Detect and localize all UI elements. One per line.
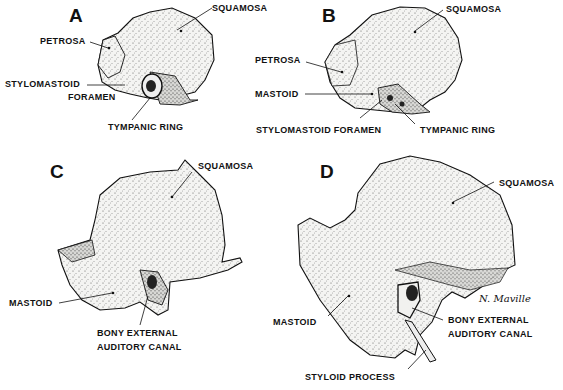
label-b-squamosa: SQUAMOSA	[446, 4, 501, 15]
panel-a-bone	[87, 8, 214, 120]
label-a-petrosa: PETROSA	[40, 36, 86, 47]
label-b-mastoid: MASTOID	[255, 89, 298, 100]
label-c-canal-line1: BONY EXTERNAL	[97, 328, 178, 339]
label-a-foramen: FORAMEN	[68, 92, 116, 103]
label-c-mastoid: MASTOID	[9, 298, 52, 309]
panel-letter-a: A	[69, 6, 83, 25]
label-b-stylomastoid-foramen: STYLOMASTOID FORAMEN	[256, 125, 381, 136]
label-d-mastoid: MASTOID	[273, 317, 316, 328]
illustrator-signature: N. Maville	[479, 293, 531, 304]
label-a-squamosa: SQUAMOSA	[212, 3, 267, 14]
label-d-styloid-process: STYLOID PROCESS	[305, 372, 395, 383]
label-a-stylomastoid: STYLOMASTOID	[5, 79, 80, 90]
panel-c-bone	[58, 160, 242, 325]
label-a-tympanic-ring: TYMPANIC RING	[108, 122, 183, 133]
panel-letter-c: C	[50, 162, 64, 181]
label-b-petrosa: PETROSA	[255, 55, 301, 66]
label-d-squamosa: SQUAMOSA	[499, 178, 554, 189]
label-d-canal-line1: BONY EXTERNAL	[448, 315, 529, 326]
label-b-tympanic-ring: TYMPANIC RING	[420, 125, 495, 136]
panel-letter-d: D	[320, 162, 334, 181]
label-c-squamosa: SQUAMOSA	[198, 161, 253, 172]
label-c-canal-line2: AUDITORY CANAL	[97, 342, 182, 353]
panel-letter-b: B	[322, 6, 336, 25]
label-d-canal-line2: AUDITORY CANAL	[448, 329, 533, 340]
